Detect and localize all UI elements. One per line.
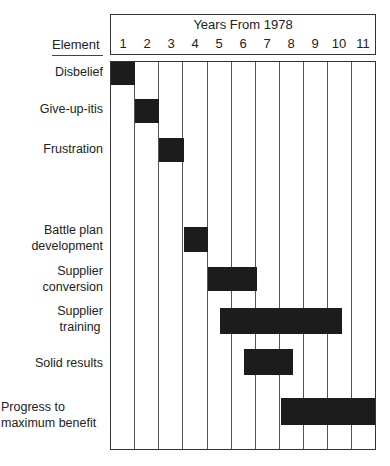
gridline bbox=[231, 62, 232, 449]
bar-battle-plan-development bbox=[184, 227, 208, 252]
bar-supplier-conversion bbox=[208, 267, 257, 291]
gridline bbox=[255, 62, 256, 449]
bar-solid-results bbox=[244, 349, 293, 375]
y-axis-title: Element bbox=[52, 37, 100, 52]
row-label-frustration: Frustration bbox=[43, 141, 103, 157]
gridline bbox=[279, 62, 280, 449]
label-line: Supplier bbox=[57, 303, 103, 319]
label-line: Progress to bbox=[1, 399, 96, 415]
bar-disbelief bbox=[111, 62, 135, 85]
bar-supplier-training bbox=[220, 308, 342, 334]
x-tick: 7 bbox=[255, 36, 279, 51]
row-label-supplier-conversion: Supplier conversion bbox=[43, 263, 103, 295]
label-line: maximum benefit bbox=[1, 415, 96, 431]
bar-frustration bbox=[159, 138, 184, 162]
gridline bbox=[303, 62, 304, 449]
x-tick: 10 bbox=[327, 36, 351, 51]
row-label-progress: Progress to maximum benefit bbox=[1, 399, 96, 431]
bar-give-up-itis bbox=[135, 99, 159, 123]
gridline bbox=[351, 62, 352, 449]
label-line: training bbox=[57, 319, 103, 335]
x-tick: 5 bbox=[207, 36, 231, 51]
x-tick: 9 bbox=[303, 36, 327, 51]
bar-progress-to-maximum-benefit bbox=[281, 398, 375, 425]
x-tick: 4 bbox=[183, 36, 207, 51]
row-label-solid-results: Solid results bbox=[35, 355, 103, 371]
label-line: Battle plan bbox=[31, 222, 103, 238]
x-tick: 8 bbox=[279, 36, 303, 51]
row-label-disbelief: Disbelief bbox=[55, 64, 103, 80]
row-label-supplier-training: Supplier training bbox=[57, 303, 103, 335]
label-line: conversion bbox=[43, 279, 103, 295]
gridline bbox=[327, 62, 328, 449]
x-tick: 3 bbox=[159, 36, 183, 51]
x-tick: 2 bbox=[135, 36, 159, 51]
gridline bbox=[182, 62, 183, 449]
chart-header: Years From 1978 1 2 3 4 5 6 7 8 9 10 11 bbox=[110, 14, 376, 55]
row-label-battle-plan: Battle plan development bbox=[31, 222, 103, 254]
chart-grid bbox=[110, 61, 376, 450]
x-tick: 6 bbox=[231, 36, 255, 51]
gridline bbox=[207, 62, 208, 449]
x-tick: 11 bbox=[351, 36, 375, 51]
label-line: Supplier bbox=[43, 263, 103, 279]
x-tick: 1 bbox=[111, 36, 135, 51]
y-axis-title-underline bbox=[52, 55, 103, 56]
row-label-give-up-itis: Give-up-itis bbox=[40, 101, 103, 117]
label-line: development bbox=[31, 238, 103, 254]
x-axis-title: Years From 1978 bbox=[111, 17, 375, 32]
